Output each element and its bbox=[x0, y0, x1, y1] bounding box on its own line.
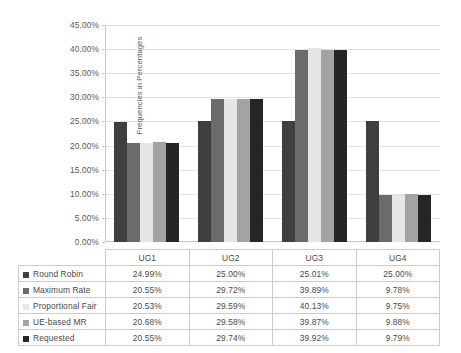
bar bbox=[295, 50, 308, 242]
bar bbox=[127, 143, 140, 242]
legend-swatch-icon bbox=[23, 304, 29, 310]
table-value-cell: 25.00% bbox=[356, 266, 440, 282]
table-value-cell: 29.59% bbox=[189, 298, 273, 314]
bar bbox=[418, 195, 431, 242]
table-value-cell: 20.55% bbox=[106, 282, 190, 298]
bar bbox=[198, 121, 211, 242]
table-value-cell: 9.75% bbox=[356, 298, 440, 314]
table-row: Requested20.55%29.74%39.92%9.79% bbox=[19, 330, 440, 346]
table-value-cell: 39.87% bbox=[273, 314, 357, 330]
legend-series-name: Requested bbox=[33, 333, 74, 343]
table-value-cell: 29.58% bbox=[189, 314, 273, 330]
table-series-label-cell: Proportional Fair bbox=[19, 298, 106, 314]
plot-area: 0.00%5.00%10.00%15.00%20.00%25.00%30.00%… bbox=[105, 25, 440, 242]
bar bbox=[237, 99, 250, 242]
y-axis-tick-label: 40.00% bbox=[70, 44, 99, 54]
y-axis-tick-label: 30.00% bbox=[70, 92, 99, 102]
bar bbox=[282, 121, 295, 242]
table-row: Round Robin24.99%25.00%25.01%25.00% bbox=[19, 266, 440, 282]
bar bbox=[166, 143, 179, 242]
legend-swatch-icon bbox=[23, 288, 29, 294]
table-value-cell: 29.72% bbox=[189, 282, 273, 298]
y-axis-tick-label: 25.00% bbox=[70, 116, 99, 126]
y-axis-tick-label: 15.00% bbox=[70, 165, 99, 175]
legend-series-name: Maximum Rate bbox=[33, 285, 91, 295]
bar bbox=[153, 142, 166, 242]
y-axis-tick-label: 0.00% bbox=[75, 237, 99, 247]
y-axis-tick-label: 45.00% bbox=[70, 20, 99, 30]
table-series-label-cell: UE-based MR bbox=[19, 314, 106, 330]
y-axis-tick-label: 20.00% bbox=[70, 141, 99, 151]
bar bbox=[308, 48, 321, 242]
legend-series-name: Proportional Fair bbox=[33, 301, 97, 311]
table-col-header: UG1 bbox=[106, 250, 190, 266]
bar bbox=[114, 122, 127, 243]
bar bbox=[379, 195, 392, 242]
bar-chart-with-data-table: 0.00%5.00%10.00%15.00%20.00%25.00%30.00%… bbox=[0, 0, 461, 353]
table-value-cell: 9.88% bbox=[356, 314, 440, 330]
bar bbox=[334, 50, 347, 243]
bar-group-ug1 bbox=[105, 25, 189, 242]
table-corner-cell bbox=[19, 250, 106, 266]
table-value-cell: 29.74% bbox=[189, 330, 273, 346]
table-row: Proportional Fair20.53%29.59%40.13%9.75% bbox=[19, 298, 440, 314]
table-value-cell: 40.13% bbox=[273, 298, 357, 314]
table-col-header: UG3 bbox=[273, 250, 357, 266]
table-value-cell: 39.92% bbox=[273, 330, 357, 346]
bar bbox=[250, 99, 263, 242]
bar bbox=[366, 121, 379, 242]
legend-swatch-icon bbox=[23, 320, 29, 326]
bar bbox=[405, 194, 418, 242]
table-value-cell: 25.00% bbox=[189, 266, 273, 282]
chart-data-table: UG1 UG2 UG3 UG4 Round Robin24.99%25.00%2… bbox=[18, 249, 440, 346]
bar-group-ug4 bbox=[356, 25, 440, 242]
y-axis-tick-label: 5.00% bbox=[75, 213, 99, 223]
bar-group-ug2 bbox=[189, 25, 273, 242]
table-value-cell: 24.99% bbox=[106, 266, 190, 282]
bar-group-ug3 bbox=[273, 25, 357, 242]
table-value-cell: 9.78% bbox=[356, 282, 440, 298]
legend-swatch-icon bbox=[23, 336, 29, 342]
y-axis-tick-mark bbox=[102, 242, 105, 243]
table-header-row: UG1 UG2 UG3 UG4 bbox=[19, 250, 440, 266]
bar-series-layer bbox=[105, 25, 440, 242]
bar bbox=[321, 50, 334, 242]
bar bbox=[140, 143, 153, 242]
bar bbox=[392, 195, 405, 242]
bar bbox=[211, 99, 224, 242]
legend-series-name: Round Robin bbox=[33, 269, 83, 279]
legend-series-name: UE-based MR bbox=[33, 317, 87, 327]
table-series-label-cell: Requested bbox=[19, 330, 106, 346]
table-value-cell: 20.53% bbox=[106, 298, 190, 314]
table-col-header: UG2 bbox=[189, 250, 273, 266]
bar bbox=[224, 99, 237, 242]
table-row: Maximum Rate20.55%29.72%39.89%9.78% bbox=[19, 282, 440, 298]
table-series-label-cell: Maximum Rate bbox=[19, 282, 106, 298]
table-series-label-cell: Round Robin bbox=[19, 266, 106, 282]
table-value-cell: 20.55% bbox=[106, 330, 190, 346]
table-value-cell: 39.89% bbox=[273, 282, 357, 298]
table-col-header: UG4 bbox=[356, 250, 440, 266]
table-value-cell: 25.01% bbox=[273, 266, 357, 282]
y-axis-tick-label: 35.00% bbox=[70, 68, 99, 78]
table-row: UE-based MR20.68%29.58%39.87%9.88% bbox=[19, 314, 440, 330]
legend-swatch-icon bbox=[23, 272, 29, 278]
y-axis-tick-label: 10.00% bbox=[70, 189, 99, 199]
table-value-cell: 9.79% bbox=[356, 330, 440, 346]
table-value-cell: 20.68% bbox=[106, 314, 190, 330]
